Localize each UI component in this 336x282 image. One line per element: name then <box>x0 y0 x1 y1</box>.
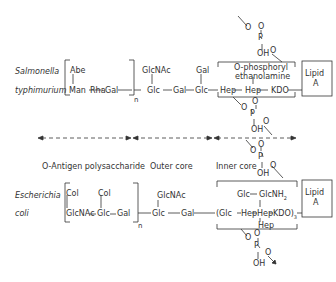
region-o-antigen: O-Antigen polysaccharide <box>42 163 145 171</box>
phosphate-o: O <box>241 104 247 112</box>
sugar-glcnac: GlcNAc <box>142 67 171 75</box>
sugar-hep: Hep <box>245 87 261 95</box>
sugar-hep-branch: Hep <box>258 222 274 230</box>
organism-name: Salmonella <box>15 68 59 76</box>
sugar-gal: Gal <box>181 210 194 218</box>
sugar-hep: Hep <box>220 87 236 95</box>
phosphate-o: O <box>270 162 276 170</box>
region-outer-core: Outer core <box>150 163 193 171</box>
phosphate-o: O <box>245 24 251 32</box>
diagram-lines <box>0 0 336 282</box>
sugar-gal-branch: Gal <box>196 67 209 75</box>
sugar-glc: Glc <box>237 191 250 199</box>
phosphate-oh: OH <box>251 126 263 134</box>
phosphate-o: O <box>245 234 251 242</box>
repeat-n: n <box>138 222 142 230</box>
organism-name: Escherichia <box>15 192 61 200</box>
phosphate-oh: OH <box>253 260 265 268</box>
phosphate-p: P <box>250 110 255 118</box>
sugar-hep: Hep <box>241 210 257 218</box>
sugar-abe: Abe <box>70 67 85 75</box>
sugar-glcnh2: GlcNH2 <box>259 191 287 202</box>
lipid-a: Lipid <box>305 70 324 78</box>
sugar-glc: Glc <box>195 87 208 95</box>
subscript: 2 <box>284 195 287 201</box>
sugar-col: Col <box>98 190 111 198</box>
sugar-man: Man <box>69 87 86 95</box>
sugar-glcnac: GlcNAc <box>157 192 186 200</box>
sugar-glc: Glc <box>152 210 165 218</box>
sugar-gal: Gal <box>173 87 186 95</box>
sugar-kdo-text: KDO) <box>273 209 294 218</box>
sugar-gal: Gal <box>117 210 130 218</box>
lipid-a: Lipid <box>305 189 324 197</box>
subscript: 3 <box>294 214 297 220</box>
phosphate-o: O <box>265 249 271 257</box>
sugar-col: Col <box>66 190 79 198</box>
phosphate-o: O <box>263 118 269 126</box>
lipid-a: A <box>313 199 318 207</box>
organism-name: coli <box>15 210 29 218</box>
phosphate-o: O <box>270 47 276 55</box>
phosphate-p: P <box>258 34 263 42</box>
sugar-glc: Glc <box>147 87 160 95</box>
phosphate-o: O <box>252 98 258 106</box>
sugar-glc: (Glc <box>216 210 232 218</box>
sugar-rha: Rha <box>90 87 106 95</box>
phosphate-o: O <box>254 230 260 238</box>
sugar-glcnh-text: GlcNH <box>259 190 284 199</box>
annotation: ethanolamine <box>235 73 290 81</box>
phosphate-oh: OH <box>257 170 269 178</box>
sugar-kdo: KDO <box>271 87 289 95</box>
phosphate-p: P <box>258 153 263 161</box>
organism-name: typhimurium <box>15 87 66 95</box>
phosphate-o: O <box>258 141 264 149</box>
repeat-n: n <box>134 96 138 104</box>
sugar-gal: Gal <box>105 87 118 95</box>
lipid-a: A <box>313 80 318 88</box>
sugar-hep: Hep <box>257 210 273 218</box>
sugar-glc: Glc <box>97 210 110 218</box>
sugar-kdo: KDO)3 <box>273 210 297 221</box>
sugar-glcnac: GlcNAc <box>66 210 95 218</box>
annotation: O-phosphoryl <box>234 64 288 72</box>
phosphate-o: O <box>258 23 264 31</box>
phosphate-oh: OH <box>257 50 269 58</box>
phosphate-p: P <box>254 242 259 250</box>
phosphate-o: O <box>250 147 256 155</box>
region-inner-core: Inner core <box>216 163 257 171</box>
